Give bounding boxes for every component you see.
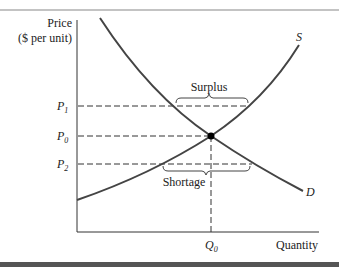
equilibrium-point — [208, 133, 215, 140]
q0-label: Q0 — [205, 238, 218, 254]
p2-label: P2 — [56, 157, 68, 173]
p0-label: P0 — [56, 129, 68, 145]
supply-demand-chart: Price ($ per unit) P1 P0 P2 Q0 Quantity … — [0, 0, 339, 267]
y-axis-label-line2: ($ per unit) — [18, 31, 72, 45]
demand-label: D — [305, 185, 315, 199]
bottom-border — [0, 262, 339, 267]
shortage-brace — [163, 166, 250, 175]
demand-curve — [100, 18, 303, 191]
shortage-label: Shortage — [163, 175, 206, 189]
surplus-brace — [176, 94, 248, 103]
y-axis-label-line1: Price — [47, 16, 72, 30]
surplus-label: Surplus — [191, 80, 228, 94]
supply-label: S — [296, 30, 302, 44]
x-axis-label: Quantity — [276, 238, 318, 252]
p1-label: P1 — [56, 99, 68, 115]
